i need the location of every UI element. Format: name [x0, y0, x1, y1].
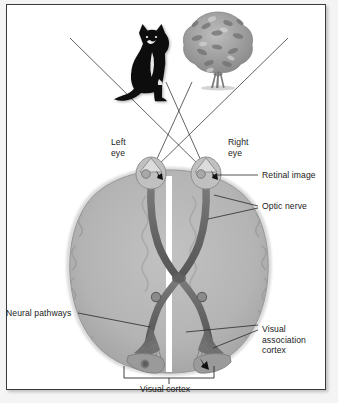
optic-chiasm [172, 273, 186, 283]
cortical-image-bush [141, 360, 150, 369]
bush-canopy [183, 12, 252, 73]
label-neural-pathways: Neural pathways [6, 308, 71, 319]
sight-lines-group [70, 38, 288, 172]
visual-cortex-right [194, 354, 231, 374]
label-retinal-image: Retinal image [262, 170, 316, 181]
right-retinal-image-disc [197, 170, 206, 179]
label-visual-cortex: Visual cortex [140, 384, 190, 395]
label-visual-association-cortex: Visual association cortex [262, 324, 306, 356]
bush-shrub [183, 12, 252, 91]
label-left-eye: Left eye [111, 137, 126, 158]
figure-page: Left eye Right eye Retinal image Optic n… [0, 0, 338, 403]
label-optic-nerve: Optic nerve [262, 201, 307, 212]
lgn-right [197, 292, 206, 301]
label-right-eye: Right eye [228, 137, 249, 158]
left-retinal-image-disc [142, 170, 151, 179]
diagram-stage: Left eye Right eye Retinal image Optic n… [0, 0, 338, 403]
lgn-left [151, 292, 160, 301]
right-eye [191, 157, 221, 189]
left-eye [136, 157, 166, 189]
